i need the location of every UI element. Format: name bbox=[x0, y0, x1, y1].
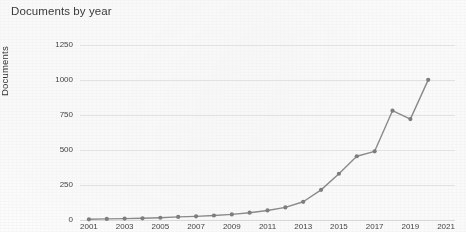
x-tick-label: 2019 bbox=[401, 222, 419, 231]
gridline-y bbox=[80, 80, 455, 81]
x-tick-label: 2009 bbox=[223, 222, 241, 231]
y-tick-label: 0 bbox=[40, 215, 73, 224]
x-tick-label: 2011 bbox=[259, 222, 276, 231]
x-tick-label: 2013 bbox=[294, 222, 312, 231]
y-axis-label: Documents bbox=[0, 46, 10, 96]
x-tick-label: 2003 bbox=[116, 222, 134, 231]
gridline-y bbox=[80, 45, 455, 46]
y-tick-label: 1000 bbox=[40, 75, 73, 84]
x-tick-label: 2007 bbox=[187, 222, 205, 231]
x-tick-label: 2001 bbox=[80, 222, 98, 231]
plot-area bbox=[80, 35, 455, 220]
chart-title: Documents by year bbox=[11, 5, 112, 17]
y-tick-label: 500 bbox=[40, 145, 73, 154]
x-tick-label: 2015 bbox=[330, 222, 348, 231]
y-tick-label: 250 bbox=[40, 180, 73, 189]
chart-container: Documents by year Documents 025050075010… bbox=[0, 0, 466, 232]
x-tick-label: 2021 bbox=[437, 222, 455, 231]
x-tick-label: 2005 bbox=[151, 222, 169, 231]
x-axis-line bbox=[80, 220, 455, 221]
x-tick-label: 2017 bbox=[366, 222, 384, 231]
gridline-y bbox=[80, 185, 455, 186]
y-tick-label: 1250 bbox=[40, 40, 73, 49]
y-tick-label: 750 bbox=[40, 110, 73, 119]
gridline-y bbox=[80, 115, 455, 116]
gridline-y bbox=[80, 150, 455, 151]
